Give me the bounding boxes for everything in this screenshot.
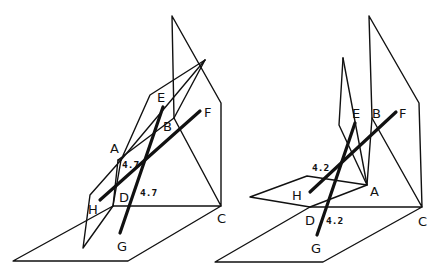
left-measure-1: 4.7 bbox=[122, 159, 139, 170]
left-tilted-plane bbox=[83, 60, 205, 248]
right-measure-2: 4.2 bbox=[326, 215, 343, 226]
right-label-B: B bbox=[372, 106, 381, 121]
right-label-D: D bbox=[305, 213, 315, 228]
left-label-A: A bbox=[110, 141, 119, 156]
left-label-D: D bbox=[119, 190, 129, 205]
left-label-C: C bbox=[217, 211, 226, 226]
right-label-C: C bbox=[418, 214, 427, 229]
left-label-B: B bbox=[163, 119, 172, 134]
right-label-A: A bbox=[370, 184, 379, 199]
diagram-canvas: A B C D E F G H 4.7 4.7 A B C D E F G H … bbox=[0, 0, 435, 272]
left-label-H: H bbox=[88, 202, 98, 217]
left-label-F: F bbox=[204, 105, 211, 120]
left-line-EG bbox=[120, 107, 163, 233]
left-label-G: G bbox=[117, 239, 127, 254]
left-label-E: E bbox=[157, 90, 165, 105]
right-label-F: F bbox=[399, 106, 406, 121]
left-measure-2: 4.7 bbox=[140, 187, 157, 198]
left-plane-edge bbox=[174, 60, 205, 118]
left-vertical-plane bbox=[172, 16, 221, 206]
right-label-H: H bbox=[292, 188, 302, 203]
right-figure: A B C D E F G H 4.2 4.2 bbox=[215, 16, 427, 262]
left-figure: A B C D E F G H 4.7 4.7 bbox=[13, 16, 226, 261]
right-label-G: G bbox=[311, 241, 321, 256]
right-label-E: E bbox=[352, 106, 360, 121]
right-measure-1: 4.2 bbox=[312, 162, 329, 173]
